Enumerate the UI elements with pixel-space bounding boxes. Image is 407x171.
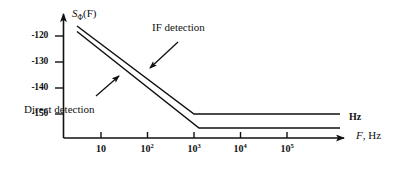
x-tick-label-1: 102 [132,144,162,154]
annotation-if-detection: IF detection [152,22,205,33]
x-tick-label-1-mantissa: 10 [140,143,150,154]
x-tick-label-3: 104 [225,144,255,154]
phase-noise-chart: SΦ(F) -120 -130 -140 -150 10 102 103 104… [0,0,407,171]
if-detection-arrow [150,42,178,68]
x-tick-label-4-exponent: 5 [290,142,293,149]
x-tick-label-1-exponent: 2 [150,142,153,149]
x-tick-label-0-mantissa: 10 [96,143,106,154]
x-tick-label-3-exponent: 4 [243,142,246,149]
x-tick-label-2-mantissa: 10 [187,143,197,154]
y-tick-label-2: -140 [14,83,48,93]
x-tick-label-4-mantissa: 10 [280,143,290,154]
x-axis [64,132,345,138]
x-tick-label-2: 103 [179,144,209,154]
series-if-detection [77,26,340,114]
annotation-direct-detection: Direct detection [24,104,95,115]
unit-note-hz: Hz [349,112,361,122]
y-axis [55,14,64,138]
y-axis-title-arg: (F) [83,7,96,19]
x-tick-label-0: 10 [86,144,116,154]
y-tick-label-0: -120 [14,31,48,41]
y-axis-title: SΦ(F) [72,8,96,19]
x-axis-title-unit: , Hz [363,129,381,141]
x-tick-label-3-mantissa: 10 [233,143,243,154]
x-tick-label-2-exponent: 3 [197,142,200,149]
y-tick-label-1: -130 [14,57,48,67]
x-axis-title: F, Hz [356,130,381,141]
x-tick-label-4: 105 [272,144,302,154]
direct-detection-arrow [96,76,119,96]
x-axis-title-symbol: F [356,129,363,141]
